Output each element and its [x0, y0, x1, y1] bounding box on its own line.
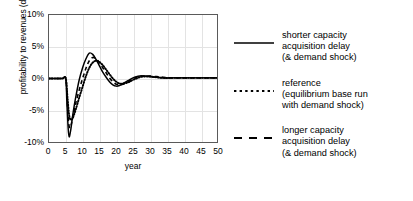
y-tick-label-10: 10% — [0, 10, 44, 19]
legend-line: longer capacity — [282, 125, 412, 136]
legend-key-dashed-icon — [234, 129, 278, 139]
legend-line: reference — [282, 78, 412, 89]
legend-item-longer-delay: longer capacity acquisition delay (& dem… — [234, 125, 412, 159]
legend-key-solid-icon — [234, 34, 278, 44]
x-axis-label: year — [48, 161, 218, 171]
legend-label-reference: reference (equilibrium base run with dem… — [282, 78, 412, 112]
series-line — [49, 53, 217, 137]
x-tick-label-50: 50 — [206, 147, 230, 156]
y-tick-label-neg10: -10% — [0, 138, 44, 147]
legend-item-shorter-delay: shorter capacity acquisition delay (& de… — [234, 30, 412, 64]
y-tick-label-neg5: -5% — [0, 106, 44, 115]
legend-line: (& demand shock) — [282, 148, 412, 159]
legend-line: shorter capacity — [282, 30, 412, 41]
y-tick-label-0: 0% — [0, 74, 44, 83]
y-tick-label-5: 5% — [0, 42, 44, 51]
legend-label-longer-delay: longer capacity acquisition delay (& dem… — [282, 125, 412, 159]
legend-line: (equilibrium base run — [282, 89, 412, 100]
series-line — [49, 57, 217, 128]
plot-area — [48, 14, 218, 143]
legend-key-dotted-icon — [234, 82, 278, 92]
chart-legend: shorter capacity acquisition delay (& de… — [234, 30, 412, 173]
legend-label-shorter-delay: shorter capacity acquisition delay (& de… — [282, 30, 412, 64]
legend-item-reference: reference (equilibrium base run with dem… — [234, 78, 412, 112]
legend-line: (& demand shock) — [282, 52, 412, 63]
legend-line: acquisition delay — [282, 136, 412, 147]
series-lines — [49, 15, 217, 142]
legend-line: with demand shock) — [282, 100, 412, 111]
chart-figure: profitability to revenues (dmnl) 10% 5% … — [0, 0, 413, 201]
legend-line: acquisition delay — [282, 41, 412, 52]
